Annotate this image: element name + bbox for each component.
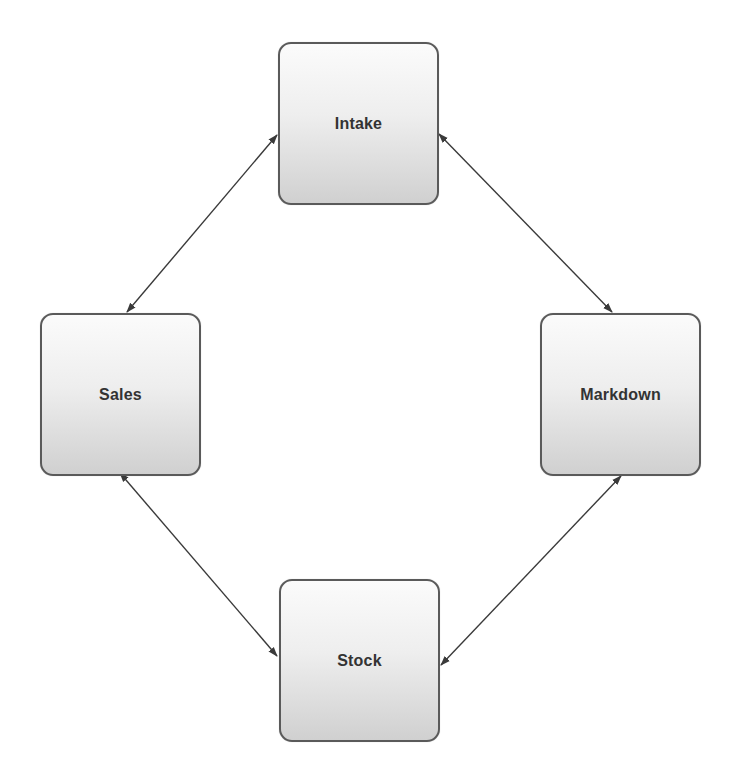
node-label-stock: Stock <box>337 652 382 670</box>
node-label-markdown: Markdown <box>580 386 661 404</box>
node-sales: Sales <box>40 313 201 476</box>
arrow-sales-intake <box>127 135 277 312</box>
arrow-markdown-stock <box>441 476 621 665</box>
node-intake: Intake <box>278 42 439 205</box>
arrow-stock-sales <box>120 473 277 656</box>
node-label-intake: Intake <box>335 115 382 133</box>
node-markdown: Markdown <box>540 313 701 476</box>
node-label-sales: Sales <box>99 386 142 404</box>
arrow-intake-markdown <box>439 134 612 312</box>
cycle-diagram: Intake Markdown Stock Sales <box>0 0 733 779</box>
node-stock: Stock <box>279 579 440 742</box>
